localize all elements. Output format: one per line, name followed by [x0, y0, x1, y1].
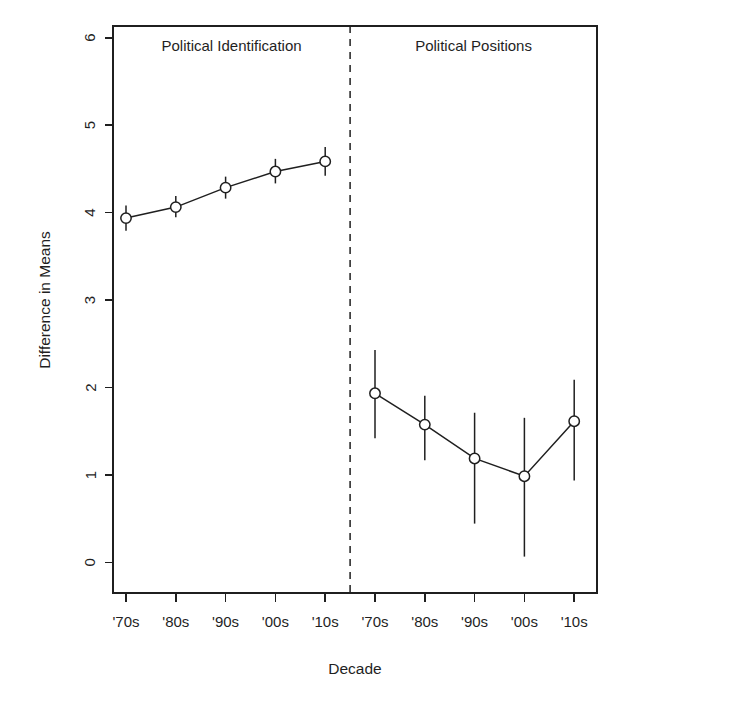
panel-label-political-positions: Political Positions — [415, 37, 532, 54]
y-axis-title: Difference in Means — [36, 231, 53, 369]
y-tick-label-4: 4 — [82, 208, 99, 216]
errorbar-line-chart: 6 5 4 3 2 1 0 Difference in Means '70s'8… — [0, 0, 744, 709]
y-tick-label-1: 1 — [82, 471, 99, 479]
x-tick-label-8: '00s — [511, 613, 538, 630]
panel-label-political-identification: Political Identification — [162, 37, 302, 54]
series-political-identification — [121, 147, 331, 231]
x-tick-label-5: '70s — [361, 613, 388, 630]
x-tick-label-1: '80s — [162, 613, 189, 630]
x-axis-ticks — [126, 593, 574, 602]
x-tick-label-7: '90s — [461, 613, 488, 630]
y-tick-label-0: 0 — [82, 558, 99, 566]
x-tick-label-0: '70s — [112, 613, 139, 630]
x-axis-title: Decade — [328, 660, 381, 677]
data-point-political-positions-4 — [569, 416, 579, 426]
data-point-political-identification-3 — [270, 166, 280, 176]
data-point-political-positions-2 — [469, 453, 479, 463]
data-point-political-identification-2 — [220, 182, 230, 192]
x-tick-label-6: '80s — [411, 613, 438, 630]
data-point-political-positions-0 — [370, 388, 380, 398]
data-point-political-identification-0 — [121, 213, 131, 223]
y-tick-label-2: 2 — [82, 383, 99, 391]
y-axis-tick-labels: 6 5 4 3 2 1 0 — [82, 34, 99, 567]
data-point-political-positions-1 — [420, 419, 430, 429]
data-point-political-identification-4 — [320, 156, 330, 166]
x-tick-label-3: '00s — [262, 613, 289, 630]
data-point-political-positions-3 — [519, 471, 529, 481]
y-tick-label-5: 5 — [82, 121, 99, 129]
x-tick-label-9: '10s — [561, 613, 588, 630]
data-point-political-identification-1 — [171, 202, 181, 212]
x-axis-tick-labels: '70s'80s'90s'00s'10s'70s'80s'90s'00s'10s — [112, 613, 587, 630]
y-tick-label-3: 3 — [82, 296, 99, 304]
x-tick-label-4: '10s — [312, 613, 339, 630]
chart-figure: 6 5 4 3 2 1 0 Difference in Means '70s'8… — [0, 0, 744, 709]
y-axis-ticks — [105, 38, 113, 563]
x-tick-label-2: '90s — [212, 613, 239, 630]
y-tick-label-6: 6 — [82, 34, 99, 42]
series-political-positions — [370, 350, 580, 556]
